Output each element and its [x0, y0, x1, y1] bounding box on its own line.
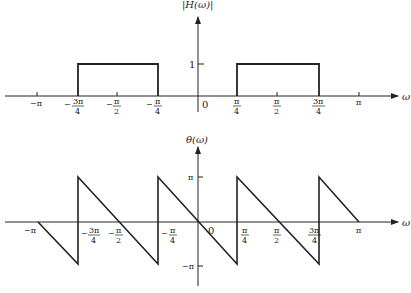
svg-text:4: 4 — [316, 107, 321, 116]
svg-text:π: π — [242, 226, 247, 235]
svg-text:π: π — [234, 97, 239, 106]
svg-text:4: 4 — [91, 236, 96, 245]
svg-text:4: 4 — [170, 236, 175, 245]
tick-label-1: 1 — [189, 59, 195, 70]
svg-text:π: π — [356, 98, 361, 107]
svg-text:3π: 3π — [309, 226, 319, 235]
svg-text:0: 0 — [202, 99, 208, 110]
svg-text:−π: −π — [24, 226, 36, 235]
svg-text:−: − — [108, 229, 115, 238]
svg-text:−: − — [161, 229, 168, 238]
bottom-y-label: θ(ω) — [186, 134, 208, 145]
passband-negative — [78, 64, 158, 96]
svg-text:π: π — [114, 97, 119, 106]
svg-text:2: 2 — [114, 107, 119, 116]
top-y-label: |H(ω)| — [182, 0, 213, 11]
magnitude-plot: |H(ω)| ω 1 −π − 3π 4 − π 2 − π 4 0 π 4 — [5, 0, 410, 116]
svg-text:0: 0 — [208, 225, 214, 236]
tlabel-neg-pi: −π — [30, 99, 42, 108]
svg-text:π: π — [274, 226, 279, 235]
svg-text:π: π — [155, 97, 160, 106]
svg-text:2: 2 — [116, 236, 121, 245]
passband-positive — [237, 64, 319, 96]
tick-label-neg-pi: −π — [182, 262, 194, 271]
svg-text:4: 4 — [242, 236, 247, 245]
svg-text:π: π — [274, 97, 279, 106]
svg-text:4: 4 — [75, 107, 80, 116]
bottom-x-label: ω — [402, 217, 410, 228]
svg-text:−: − — [64, 100, 71, 109]
svg-text:2: 2 — [274, 236, 279, 245]
svg-text:4: 4 — [312, 236, 317, 245]
svg-text:−: − — [146, 100, 153, 109]
svg-text:π: π — [116, 226, 121, 235]
phase-plot: θ(ω) ω π −π −π − 3π 4 − π 2 − π 4 0 π 4 … — [5, 134, 410, 286]
top-x-label: ω — [402, 91, 410, 102]
svg-text:3π: 3π — [73, 97, 83, 106]
diagram-canvas: |H(ω)| ω 1 −π − 3π 4 − π 2 − π 4 0 π 4 — [0, 0, 411, 293]
svg-text:−: − — [106, 100, 113, 109]
svg-text:4: 4 — [234, 107, 239, 116]
tick-label-pi: π — [188, 173, 193, 182]
svg-text:2: 2 — [274, 107, 279, 116]
svg-text:π: π — [356, 226, 361, 235]
svg-text:3π: 3π — [313, 97, 323, 106]
svg-text:−: − — [81, 229, 88, 238]
svg-text:3π: 3π — [89, 226, 99, 235]
svg-text:4: 4 — [155, 107, 160, 116]
svg-text:π: π — [170, 226, 175, 235]
